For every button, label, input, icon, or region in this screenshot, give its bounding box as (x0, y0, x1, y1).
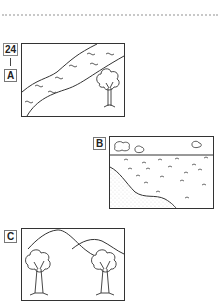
panel-a[interactable] (21, 43, 125, 117)
panel-label-a: A (4, 69, 17, 82)
panel-c[interactable] (21, 228, 125, 301)
panel-label-b: B (93, 137, 106, 150)
question-number: 24 (3, 43, 18, 56)
cloud-icon (115, 141, 202, 152)
tree-icon (92, 250, 117, 295)
tree-icon (26, 250, 51, 295)
tree-icon (97, 69, 119, 107)
panel-label-c: C (4, 230, 17, 243)
hills-landscape-icon (22, 229, 124, 300)
separator-line (10, 58, 11, 66)
panel-b[interactable] (109, 136, 214, 209)
river-landscape-icon (22, 44, 124, 116)
dotted-divider (2, 14, 218, 16)
lake-landscape-icon (110, 137, 213, 208)
